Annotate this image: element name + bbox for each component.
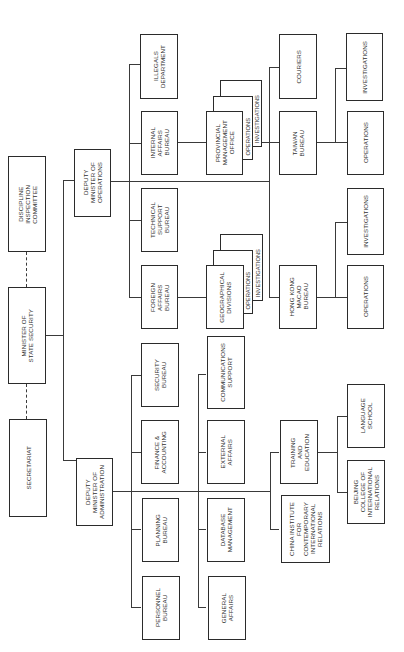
connector bbox=[129, 143, 141, 144]
connector bbox=[270, 452, 279, 453]
connector bbox=[46, 335, 63, 336]
box-language-school: LANGUAGE SCHOOL bbox=[347, 384, 385, 448]
label: SECURITY BUREAU bbox=[153, 359, 167, 391]
connector bbox=[63, 460, 76, 461]
box-communications-support: COMMUNICATIONS SUPPORT bbox=[207, 336, 245, 409]
connector bbox=[198, 374, 206, 375]
label: PERSONNEL BUREAU bbox=[154, 588, 168, 627]
org-chart: DISCIPLINE INSPECTION COMMITTEE MINISTER… bbox=[0, 0, 404, 652]
label: FOREIGN AFFAIRS BUREAU bbox=[149, 283, 170, 312]
connector bbox=[113, 491, 270, 492]
box-security-bureau: SECURITY BUREAU bbox=[141, 343, 179, 407]
connector bbox=[335, 222, 347, 223]
box-minister-of-state-security: MINISTER OF STATE SECURITY bbox=[8, 287, 46, 384]
label: INTERNAL AFFAIRS BUREAU bbox=[149, 127, 170, 158]
connector bbox=[131, 375, 141, 376]
box-beijing-college-ir: BEIJING COLLEGE OF INTERNATIONAL RELATIO… bbox=[347, 460, 385, 524]
dashed-link-secretariat bbox=[26, 384, 27, 419]
label: INVESTIGATIONS bbox=[361, 41, 368, 94]
connector bbox=[269, 297, 279, 298]
connector bbox=[131, 452, 141, 453]
box-secretariat: SECRETARIAT bbox=[9, 419, 47, 517]
connector bbox=[337, 416, 347, 417]
connector bbox=[198, 452, 206, 453]
connector bbox=[129, 64, 130, 298]
box-taiwan-operations: OPERATIONS bbox=[347, 111, 384, 175]
connector bbox=[111, 181, 269, 182]
label: SECRETARIAT bbox=[25, 446, 32, 490]
box-deputy-minister-administration: DEPUTY MINISTER OF ADMINISTRATION bbox=[76, 458, 113, 526]
connector bbox=[178, 297, 206, 298]
box-planning-bureau: PLANNING BUREAU bbox=[142, 498, 179, 562]
box-training-and-education: TRAINING AND EDUCATION bbox=[280, 420, 318, 484]
label: OPERATIONS bbox=[362, 276, 369, 317]
label: ILLEGALS DEPARTMENT bbox=[152, 45, 166, 88]
connector bbox=[317, 452, 337, 453]
box-geographical-divisions: GEOGRAPHICAL DIVISIONS bbox=[206, 265, 244, 329]
box-external-affairs: EXTERNAL AFFAIRS bbox=[207, 420, 245, 484]
label: TRAINING AND EDUCATION bbox=[289, 434, 310, 471]
label: HONG KONG MACAO BUREAU bbox=[288, 277, 309, 316]
label: PLANNING BUREAU bbox=[154, 514, 168, 546]
label: DEPUTY MINISTER OF OPERATIONS bbox=[82, 162, 103, 203]
connector bbox=[131, 375, 132, 607]
box-hk-operations: OPERATIONS bbox=[347, 265, 384, 329]
connector bbox=[131, 529, 141, 530]
box-taiwan-bureau: TAIWAN BUREAU bbox=[279, 111, 317, 175]
label: CHINA INSTITUTE FOR CONTEMPORARY INTERNA… bbox=[288, 502, 323, 556]
label: LANGUAGE SCHOOL bbox=[359, 398, 373, 433]
label: GENERAL AFFAIRS bbox=[220, 593, 234, 623]
box-database-management: DATABASE MANAGEMENT bbox=[207, 498, 245, 562]
label: GEOGRAPHICAL DIVISIONS bbox=[218, 272, 232, 323]
label: OPERATIONS bbox=[245, 118, 251, 156]
label: COURIERS bbox=[295, 50, 302, 83]
label: TECHNICAL SUPPORT BUREAU bbox=[149, 202, 170, 238]
box-deputy-minister-operations: DEPUTY MINISTER OF OPERATIONS bbox=[74, 149, 111, 217]
box-hong-kong-macao-bureau: HONG KONG MACAO BUREAU bbox=[279, 265, 317, 329]
connector bbox=[269, 67, 270, 297]
label: BEIJING COLLEGE OF INTERNATIONAL RELATIO… bbox=[352, 467, 380, 517]
label: TAIWAN BUREAU bbox=[291, 130, 305, 156]
dashed-link-discipline bbox=[26, 252, 27, 287]
label: FINANCE & ACCOUNTING bbox=[153, 431, 167, 474]
box-foreign-affairs-bureau: FOREIGN AFFAIRS BUREAU bbox=[141, 265, 178, 329]
box-provincial-management-office: PROVINCIAL MANAGEMENT OFFICE bbox=[206, 111, 243, 175]
label: PROVINCIAL MANAGEMENT OFFICE bbox=[214, 120, 235, 165]
box-illegals-department: ILLEGALS DEPARTMENT bbox=[140, 34, 178, 99]
connector bbox=[198, 529, 206, 530]
box-hk-investigations: INVESTIGATIONS bbox=[347, 188, 384, 255]
connector bbox=[63, 180, 74, 181]
box-couriers: COURIERS bbox=[279, 34, 317, 99]
connector bbox=[335, 68, 336, 143]
connector bbox=[337, 416, 338, 493]
label: INVESTIGATIONS bbox=[254, 95, 260, 143]
connector bbox=[335, 222, 336, 297]
connector bbox=[129, 220, 141, 221]
label: OPERATIONS bbox=[245, 272, 251, 310]
connector bbox=[262, 142, 269, 143]
box-discipline-inspection-committee: DISCIPLINE INSPECTION COMMITTEE bbox=[8, 156, 46, 252]
connector bbox=[269, 142, 279, 143]
connector bbox=[198, 374, 199, 607]
connector bbox=[63, 180, 64, 461]
connector bbox=[270, 529, 279, 530]
box-china-institute-cir: CHINA INSTITUTE FOR CONTEMPORARY INTERNA… bbox=[281, 495, 330, 563]
box-finance-accounting: FINANCE & ACCOUNTING bbox=[141, 420, 179, 484]
label: EXTERNAL AFFAIRS bbox=[219, 435, 233, 468]
connector bbox=[178, 142, 206, 143]
label: DISCIPLINE INSPECTION COMMITTEE bbox=[17, 185, 38, 224]
connector bbox=[317, 297, 347, 298]
connector bbox=[198, 607, 206, 608]
connector bbox=[129, 297, 141, 298]
label: MINISTER OF STATE SECURITY bbox=[20, 309, 34, 362]
label: DATABASE MANAGEMENT bbox=[219, 507, 233, 552]
label: COMMUNICATIONS SUPPORT bbox=[219, 343, 233, 402]
connector bbox=[269, 67, 279, 68]
connector bbox=[270, 452, 271, 529]
label: INVESTIGATIONS bbox=[255, 249, 261, 297]
box-technical-support-bureau: TECHNICAL SUPPORT BUREAU bbox=[141, 188, 178, 252]
label: OPERATIONS bbox=[362, 122, 369, 163]
box-taiwan-investigations: INVESTIGATIONS bbox=[346, 33, 383, 101]
connector bbox=[131, 607, 141, 608]
box-general-affairs: GENERAL AFFAIRS bbox=[208, 576, 246, 640]
